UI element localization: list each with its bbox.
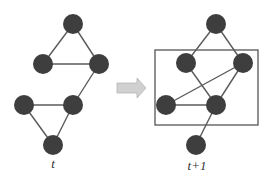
node-e [63,95,83,115]
node-a [63,14,83,34]
node-f [186,135,206,155]
node-d [156,95,176,115]
transition-arrow-icon [117,78,146,98]
node-c [233,53,253,73]
edge-c-d [166,63,243,105]
node-c [89,54,109,74]
node-b [33,54,53,74]
node-b [176,53,196,73]
graph-t-plus-1: t+1 [155,14,258,173]
node-e [206,95,226,115]
graph-t: t [14,14,109,171]
node-a [206,14,226,34]
node-d [14,95,34,115]
graph-label-t: t [51,156,55,171]
dynamic-graph-diagram: t t+1 [0,0,270,180]
graph-label-t-plus-1: t+1 [188,158,207,173]
node-f [43,135,63,155]
